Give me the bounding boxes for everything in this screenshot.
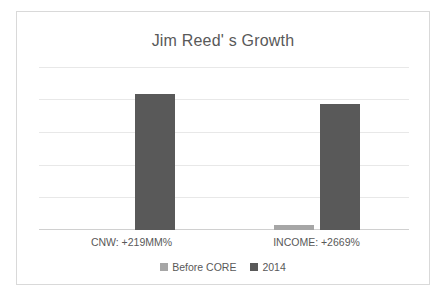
category-label-cnw: CNW: +219MM% [39, 236, 224, 248]
chart-legend: Before CORE 2014 [17, 261, 429, 273]
plot-area [39, 67, 409, 230]
legend-item-before-core[interactable]: Before CORE [160, 261, 236, 273]
category-axis-labels: CNW: +219MM% INCOME: +2669% [39, 236, 409, 252]
legend-label-2014: 2014 [262, 261, 285, 273]
chart-card: Jim Reed' s Growth CNW: +219MM% INCOME: … [16, 11, 430, 285]
bar-before-core-income[interactable] [274, 225, 314, 230]
category-label-income: INCOME: +2669% [224, 236, 409, 248]
legend-swatch-icon [160, 263, 168, 271]
gridline [39, 99, 409, 100]
bar-2014-cnw[interactable] [135, 94, 175, 230]
legend-swatch-icon [250, 263, 258, 271]
legend-label-before-core: Before CORE [172, 261, 236, 273]
chart-title: Jim Reed' s Growth [17, 32, 429, 50]
gridline [39, 67, 409, 68]
bar-2014-income[interactable] [320, 104, 360, 230]
legend-item-2014[interactable]: 2014 [250, 261, 285, 273]
